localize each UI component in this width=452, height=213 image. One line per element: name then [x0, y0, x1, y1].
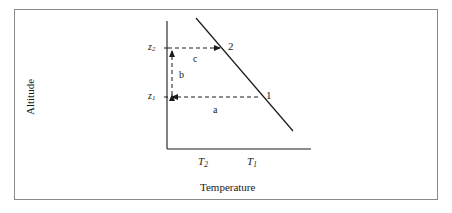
figure-root: Altitude Temperature z2 z1 T2 T1 2 1 c b… [0, 0, 452, 213]
x-tick-label-T2: T2 [198, 156, 208, 168]
x-tick-label-T2-sub: 2 [204, 160, 208, 169]
y-tick-label-z2-sub: 2 [152, 45, 155, 52]
point-label-1: 1 [266, 90, 272, 101]
x-axis-title: Temperature [200, 182, 255, 193]
x-tick-label-T1: T1 [247, 156, 257, 168]
x-tick-label-T1-sub: 1 [253, 160, 257, 169]
y-tick-label-z1: z1 [148, 91, 155, 102]
figure-frame: Altitude Temperature z2 z1 T2 T1 2 1 c b… [14, 9, 438, 200]
point-label-2: 2 [228, 41, 234, 52]
segment-label-c: c [193, 54, 197, 64]
y-tick-label-z1-sub: 1 [152, 94, 155, 101]
temperature-profile-line [196, 18, 293, 131]
y-tick-label-z2: z2 [148, 42, 155, 53]
segment-label-b: b [179, 70, 184, 80]
y-axis-title: Altitude [25, 79, 36, 115]
plot-canvas [15, 10, 439, 201]
segment-label-a: a [213, 105, 217, 115]
